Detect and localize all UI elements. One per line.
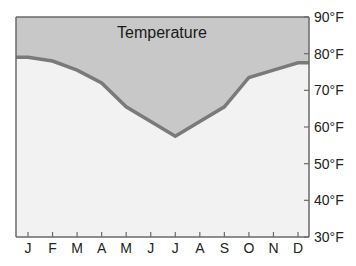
plot-area xyxy=(16,17,309,237)
data-point-5 xyxy=(150,121,151,122)
x-tick-label: F xyxy=(48,240,57,256)
data-point-2 xyxy=(77,70,78,71)
x-tick-label: A xyxy=(97,240,107,256)
data-point-9 xyxy=(248,77,249,78)
x-tick-label: D xyxy=(293,240,303,256)
y-tick-label: 80°F xyxy=(314,46,344,62)
data-point-4 xyxy=(126,106,127,107)
y-tick-label: 30°F xyxy=(314,229,344,245)
x-tick-label: O xyxy=(243,240,254,256)
data-point-8 xyxy=(224,106,225,107)
x-tick-label: S xyxy=(220,240,229,256)
y-tick-label: 70°F xyxy=(314,82,344,98)
data-point-7 xyxy=(199,121,200,122)
y-tick-label: 50°F xyxy=(314,156,344,172)
x-tick-label: M xyxy=(71,240,83,256)
x-tick-label: J xyxy=(147,240,154,256)
x-tick-label: J xyxy=(25,240,32,256)
x-tick-label: J xyxy=(172,240,179,256)
chart-title: Temperature xyxy=(117,24,207,41)
data-point-11 xyxy=(298,62,299,63)
y-tick-label: 60°F xyxy=(314,119,344,135)
x-tick-label: M xyxy=(120,240,132,256)
data-point-6 xyxy=(175,136,176,137)
y-tick-label: 40°F xyxy=(314,192,344,208)
y-tick-label: 90°F xyxy=(314,9,344,25)
data-point-10 xyxy=(273,70,274,71)
data-point-1 xyxy=(52,61,53,62)
x-tick-label: A xyxy=(195,240,205,256)
data-point-0 xyxy=(28,57,29,58)
temperature-chart: Temperature 30°F40°F50°F60°F70°F80°F90°F… xyxy=(0,0,356,266)
data-point-3 xyxy=(101,83,102,84)
x-tick-label: N xyxy=(268,240,278,256)
